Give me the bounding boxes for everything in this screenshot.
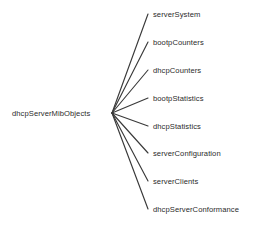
tree-child-node-label[interactable]: serverConfiguration bbox=[153, 149, 221, 158]
tree-edge bbox=[112, 98, 148, 113]
tree-root-node-label[interactable]: dhcpServerMibObjects bbox=[12, 109, 90, 118]
tree-edge bbox=[112, 70, 148, 113]
tree-edge bbox=[112, 113, 148, 126]
tree-edge bbox=[112, 113, 148, 209]
tree-edge bbox=[112, 113, 148, 181]
tree-child-node-label[interactable]: dhcpCounters bbox=[153, 66, 201, 75]
tree-child-node-label[interactable]: bootpCounters bbox=[153, 38, 204, 47]
tree-edge bbox=[112, 42, 148, 113]
tree-child-node-label[interactable]: serverClients bbox=[153, 177, 198, 186]
tree-child-node-label[interactable]: dhcpStatistics bbox=[153, 122, 201, 131]
mib-tree-diagram: dhcpServerMibObjects serverSystembootpCo… bbox=[0, 0, 268, 226]
tree-child-node-label[interactable]: bootpStatistics bbox=[153, 94, 204, 103]
tree-edge bbox=[112, 14, 148, 113]
tree-child-node-label[interactable]: dhcpServerConformance bbox=[153, 205, 239, 214]
tree-edge bbox=[112, 113, 148, 153]
tree-child-node-label[interactable]: serverSystem bbox=[153, 10, 200, 19]
